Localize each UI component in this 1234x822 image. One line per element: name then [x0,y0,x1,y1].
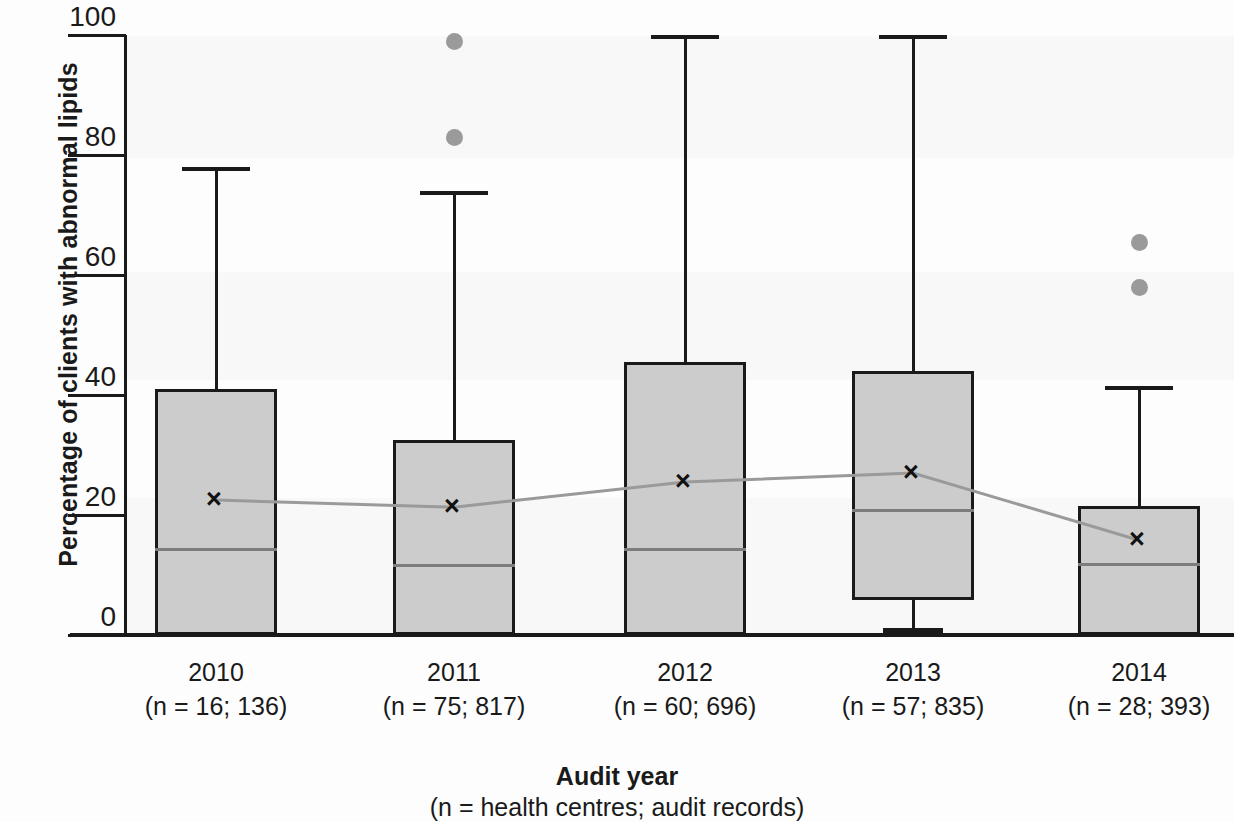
whisker-upper-stem [912,35,915,371]
box-iqr [624,362,746,635]
y-tick-mark [68,34,126,37]
outlier-point [1131,279,1148,296]
x-tick-year: 2012 [555,655,815,689]
y-tick-label: 100 [52,3,116,31]
outlier-point [1131,234,1148,251]
mean-marker: × [1129,526,1145,553]
y-tick-label: 40 [52,363,116,391]
y-tick-label: 20 [52,483,116,511]
whisker-upper-stem [215,167,218,389]
whisker-upper-cap [651,35,719,39]
median-line [1078,563,1200,566]
y-tick-label: 60 [52,243,116,271]
y-tick-mark [68,154,126,157]
x-tick-label-2014: 2014(n = 28; 393) [1009,655,1234,723]
y-axis-title: Percentage of clients with abnormal lipi… [54,15,83,615]
x-tick-year: 2014 [1009,655,1234,689]
box-iqr [393,440,515,635]
y-tick-label: 0 [52,603,116,631]
whisker-upper-stem [1138,386,1141,506]
median-line [393,564,515,567]
mean-marker: × [675,468,691,495]
outlier-point [446,33,463,50]
median-line [624,548,746,551]
median-line [852,509,974,512]
median-line [155,548,277,551]
x-tick-counts: (n = 16; 136) [86,689,346,723]
whisker-upper-cap [1105,386,1173,390]
plot-band-1 [126,36,1234,158]
whisker-lower-cap [883,628,943,637]
outlier-point [446,129,463,146]
x-tick-label-2010: 2010(n = 16; 136) [86,655,346,723]
x-tick-counts: (n = 57; 835) [783,689,1043,723]
whisker-upper-cap [879,35,947,39]
boxplot-chart: Percentage of clients with abnormal lipi… [0,0,1234,822]
x-tick-year: 2013 [783,655,1043,689]
x-axis-subtitle: (n = health centres; audit records) [0,793,1234,822]
x-tick-year: 2011 [324,655,584,689]
y-tick-mark [68,274,126,277]
x-tick-label-2012: 2012(n = 60; 696) [555,655,815,723]
whisker-upper-cap [182,167,250,171]
x-tick-counts: (n = 60; 696) [555,689,815,723]
y-axis-line [124,35,127,636]
x-tick-label-2013: 2013(n = 57; 835) [783,655,1043,723]
mean-marker: × [903,459,919,486]
x-tick-year: 2010 [86,655,346,689]
mean-marker: × [444,493,460,520]
y-tick-mark [68,394,126,397]
x-tick-counts: (n = 75; 817) [324,689,584,723]
y-tick-mark [68,514,126,517]
x-axis-title: Audit year [0,762,1234,791]
mean-marker: × [206,486,222,513]
whisker-upper-stem [684,35,687,362]
y-tick-label: 80 [52,123,116,151]
whisker-upper-stem [453,191,456,440]
whisker-upper-cap [420,191,488,195]
x-tick-label-2011: 2011(n = 75; 817) [324,655,584,723]
x-tick-counts: (n = 28; 393) [1009,689,1234,723]
